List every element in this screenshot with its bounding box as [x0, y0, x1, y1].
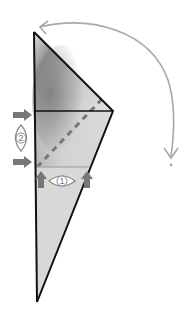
- push-arrow-left-bottom: [13, 156, 32, 168]
- push-arrow-left-top: [13, 109, 32, 121]
- shadow-gradient-spot: [32, 45, 92, 155]
- fold-diagram: 2 1: [0, 0, 191, 315]
- fold-arc-end-dot: [170, 164, 173, 167]
- lens-2-icon: 2: [16, 125, 27, 151]
- lens-2-label: 2: [18, 133, 23, 143]
- lens-1-label: 1: [59, 176, 64, 186]
- fold-arc-arrowhead-top: [40, 21, 48, 34]
